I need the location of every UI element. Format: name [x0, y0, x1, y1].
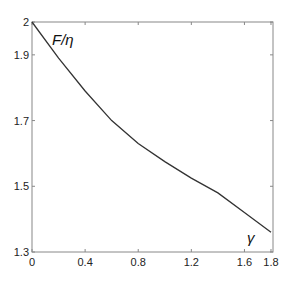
svg-text:0.4: 0.4: [77, 256, 92, 268]
svg-text:2: 2: [23, 16, 29, 28]
x-axis-label: γ: [247, 229, 256, 246]
curve-label: F/η: [52, 31, 74, 48]
svg-text:1.8: 1.8: [263, 256, 278, 268]
svg-text:1.3: 1.3: [14, 246, 29, 258]
x-axis-ticks: 00.40.81.21.61.8: [29, 22, 279, 268]
svg-text:1.7: 1.7: [14, 115, 29, 127]
line-chart: 00.40.81.21.61.8 1.31.51.71.92 F/η γ: [0, 0, 294, 282]
svg-text:1.6: 1.6: [237, 256, 252, 268]
plot-frame: [32, 22, 273, 252]
svg-text:0: 0: [29, 256, 35, 268]
svg-text:1.9: 1.9: [14, 49, 29, 61]
y-axis-ticks: 1.31.51.71.92: [14, 16, 273, 258]
svg-text:1.2: 1.2: [184, 256, 199, 268]
svg-text:0.8: 0.8: [131, 256, 146, 268]
data-line: [32, 22, 271, 232]
svg-text:1.5: 1.5: [14, 180, 29, 192]
